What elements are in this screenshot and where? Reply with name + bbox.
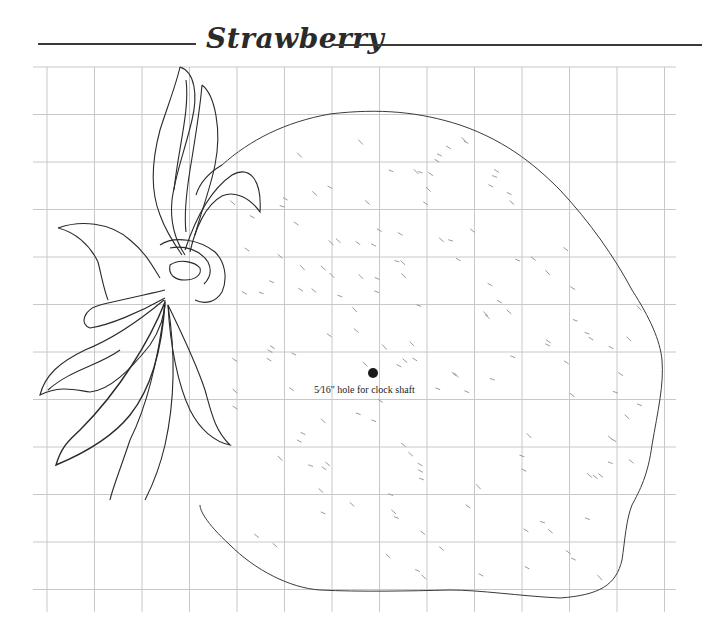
seed-mark: [510, 201, 514, 204]
seed-mark: [350, 503, 354, 507]
seed-mark: [439, 238, 443, 241]
seed-mark: [328, 186, 332, 188]
seed-mark: [627, 337, 631, 341]
seed-mark: [564, 361, 568, 364]
seed-mark: [414, 170, 418, 174]
seed-mark: [570, 394, 574, 397]
seed-mark: [541, 522, 545, 523]
seed-mark: [299, 288, 303, 291]
seed-mark: [418, 172, 422, 173]
seed-mark: [413, 358, 417, 361]
seed-mark: [546, 344, 550, 346]
seed-mark: [312, 289, 316, 293]
seed-mark: [250, 216, 254, 218]
seed-mark: [593, 476, 597, 479]
seed-mark: [507, 310, 511, 314]
seed-mark: [409, 452, 413, 456]
pattern-drawing: [0, 0, 708, 625]
seed-mark: [490, 379, 494, 380]
seed-mark: [516, 259, 520, 261]
seed-mark: [375, 278, 379, 280]
seed-mark: [436, 388, 440, 390]
seed-mark: [564, 248, 568, 251]
pattern-grid: [33, 67, 676, 612]
seed-mark: [273, 544, 277, 547]
seed-mark: [625, 415, 629, 419]
seed-mark: [608, 462, 612, 463]
seed-mark: [546, 340, 550, 343]
seed-mark: [319, 489, 323, 493]
seed-mark: [599, 474, 603, 477]
seed-mark: [270, 346, 274, 349]
seed-mark: [435, 160, 439, 162]
seed-mark: [327, 334, 331, 337]
seed-mark: [267, 358, 271, 361]
hole-description: hole for clock shaft: [337, 384, 414, 395]
seed-mark: [336, 239, 340, 243]
seed-mark: [389, 170, 393, 172]
seed-mark: [586, 518, 590, 520]
seed-mark: [233, 406, 237, 409]
seed-mark: [507, 193, 511, 195]
seed-mark: [397, 365, 401, 367]
seed-mark: [233, 389, 237, 393]
seed-mark: [416, 570, 420, 572]
seed-mark: [359, 140, 363, 144]
seed-mark: [297, 440, 301, 442]
seed-mark: [313, 192, 317, 196]
seed-mark: [309, 465, 313, 467]
seed-mark: [571, 558, 575, 560]
seed-mark: [298, 153, 302, 157]
seed-mark: [588, 474, 592, 477]
seed-mark: [609, 347, 613, 349]
seed-mark: [493, 176, 497, 178]
seed-mark: [394, 517, 398, 519]
seed-mark: [449, 240, 453, 241]
seed-mark: [233, 359, 237, 362]
seed-mark: [546, 271, 550, 275]
clock-shaft-hole: [368, 368, 378, 378]
seed-mark: [402, 274, 406, 278]
seed-mark: [278, 456, 282, 460]
seed-mark: [301, 433, 305, 435]
seed-mark: [359, 275, 363, 279]
seed-mark: [300, 266, 304, 270]
seed-mark: [531, 257, 535, 260]
seed-mark: [353, 308, 357, 312]
seed-mark: [322, 467, 326, 470]
seed-mark: [386, 554, 390, 558]
seed-mark: [437, 154, 441, 156]
seed-mark: [488, 284, 492, 286]
seed-mark: [429, 173, 433, 176]
seed-mark: [231, 201, 235, 205]
seed-mark: [548, 530, 552, 533]
seed-mark: [525, 567, 529, 569]
seed-mark: [585, 333, 589, 335]
seed-mark: [354, 329, 358, 332]
hole-size: 5⁄16": [314, 384, 335, 395]
seed-mark: [421, 531, 425, 534]
seed-mark: [638, 404, 642, 406]
strawberry-body-outline: [200, 111, 662, 598]
seed-mark: [365, 201, 369, 205]
seed-mark: [571, 287, 575, 290]
seed-mark: [395, 261, 399, 262]
seed-mark: [321, 266, 325, 270]
seed-mark: [527, 434, 531, 438]
seed-mark: [420, 478, 424, 479]
seed-mark: [356, 242, 360, 245]
seed-mark: [417, 305, 421, 307]
seed-mark: [403, 359, 407, 363]
seed-mark: [471, 229, 475, 232]
seed-mark: [245, 248, 249, 251]
seed-mark: [372, 244, 376, 246]
seed-mark: [382, 345, 386, 349]
seed-mark: [589, 337, 593, 340]
seed-mark: [637, 306, 641, 310]
seed-mark: [609, 436, 613, 439]
seed-mark: [495, 170, 499, 173]
seed-mark: [619, 373, 623, 376]
seed-mark: [259, 292, 263, 294]
seed-mark: [440, 547, 444, 550]
seed-mark: [598, 575, 602, 579]
